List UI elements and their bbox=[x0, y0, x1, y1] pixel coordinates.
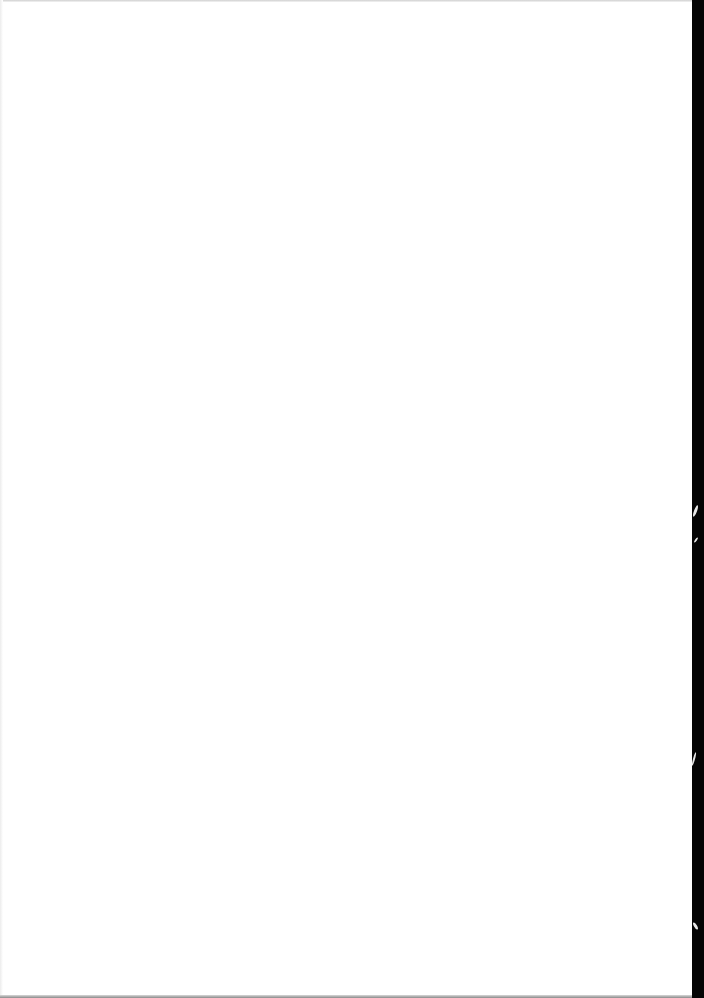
scanner-black-border bbox=[692, 0, 704, 998]
blank-scanned-page bbox=[0, 0, 692, 998]
page-top-edge bbox=[0, 0, 692, 2]
scan-artifact bbox=[692, 922, 699, 930]
page-left-edge bbox=[0, 0, 3, 998]
scan-artifact bbox=[692, 505, 699, 517]
scan-artifact bbox=[691, 752, 697, 766]
scan-artifact bbox=[693, 537, 698, 543]
